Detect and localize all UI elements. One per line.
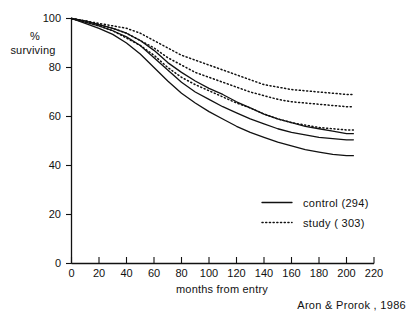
survival-curve-figure: 0 20 40 60 80 100 0 20 40 60 (0, 0, 412, 316)
legend-label-control: control (294) (303, 197, 369, 209)
x-tick-label-120: 120 (227, 267, 245, 279)
curve-control-5 (72, 19, 354, 156)
y-axis-title-line2: surviving (10, 44, 55, 56)
x-tick-label-160: 160 (282, 267, 300, 279)
y-axis-title: % surviving (10, 30, 55, 56)
legend: control (294) study ( 303) (262, 197, 369, 229)
x-tick-label-100: 100 (200, 267, 218, 279)
x-tick-label-180: 180 (310, 267, 328, 279)
x-tick-label-60: 60 (148, 267, 160, 279)
y-tick-label-80: 80 (49, 61, 61, 73)
x-tick-label-20: 20 (93, 267, 105, 279)
x-tick-labels-group: 0 20 40 60 80 100 120 140 160 180 200 22… (68, 267, 383, 279)
y-tick-label-60: 60 (49, 110, 61, 122)
curve-study-0 (72, 19, 354, 95)
y-tick-label-0: 0 (55, 257, 61, 269)
y-tick-label-20: 20 (49, 208, 61, 220)
y-tick-label-40: 40 (49, 159, 61, 171)
chart-svg: 0 20 40 60 80 100 0 20 40 60 (0, 0, 412, 316)
y-tick-label-100: 100 (43, 12, 61, 24)
x-tick-label-80: 80 (175, 267, 187, 279)
curve-control-4 (72, 19, 354, 140)
y-ticks-group (66, 19, 72, 264)
legend-label-study: study ( 303) (303, 217, 365, 229)
source-annotation: Aron & Prorok , 1986 (297, 299, 406, 311)
y-axis-title-line1: % (30, 30, 40, 42)
x-tick-label-220: 220 (365, 267, 383, 279)
x-tick-label-140: 140 (255, 267, 273, 279)
x-ticks-group (72, 257, 375, 264)
x-tick-label-200: 200 (337, 267, 355, 279)
x-axis-title: months from entry (176, 283, 268, 295)
x-tick-label-0: 0 (68, 267, 74, 279)
data-curves-layer (72, 19, 354, 156)
x-tick-label-40: 40 (120, 267, 132, 279)
